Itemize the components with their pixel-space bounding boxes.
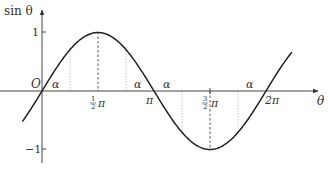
svg-text:α: α [52, 78, 60, 91]
x-tick-pi: π [145, 94, 154, 107]
svg-text:α: α [163, 78, 171, 91]
x-axis-label: θ [317, 94, 325, 108]
y-tick-minus-1: −1 [25, 143, 41, 156]
svg-text:π: π [210, 97, 219, 110]
svg-text:2: 2 [91, 103, 95, 111]
svg-text:α: α [246, 78, 254, 91]
y-axis-label: sin θ [4, 4, 33, 18]
origin-label: O [31, 77, 41, 91]
x-tick-half-pi: 1 2 π [90, 95, 106, 111]
svg-text:3: 3 [203, 95, 207, 103]
y-tick-1: 1 [32, 26, 39, 39]
svg-text:α: α [134, 78, 142, 91]
svg-text:1: 1 [91, 95, 95, 103]
x-tick-three-halves-pi: 3 2 π [202, 95, 219, 111]
svg-text:π: π [97, 97, 106, 110]
sine-diagram: sin θ θ O 1 −1 1 2 π π 3 2 π 2π α α α α [0, 0, 328, 169]
svg-text:2: 2 [203, 103, 207, 111]
x-tick-2pi: 2π [264, 94, 280, 107]
